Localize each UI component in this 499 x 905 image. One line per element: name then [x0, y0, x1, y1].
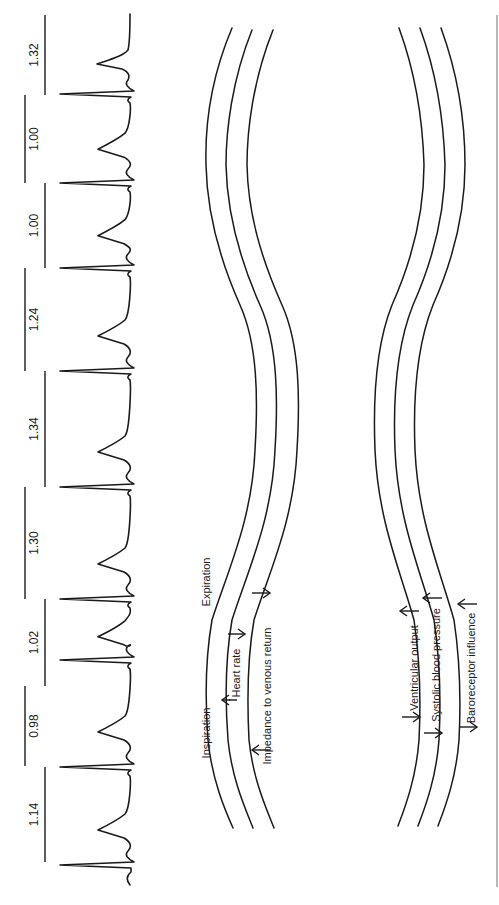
- impedance-venous-return-label: Impedance to venous return: [261, 628, 273, 765]
- rr-interval-label: 1.32: [27, 43, 41, 67]
- ventricular-output-arrow-down: [402, 712, 420, 722]
- left-curve-group: [206, 28, 299, 828]
- ventricular-output-label: Ventricular output: [408, 625, 420, 711]
- ventricular-output-arrow-up: [400, 606, 419, 616]
- phase-labels: Inspiration Expiration: [200, 558, 212, 759]
- rr-interval-label: 1.34: [27, 417, 41, 441]
- diagram-svg: 1.140.981.021.301.341.241.001.001.32: [0, 0, 499, 905]
- rr-interval-label: 1.30: [27, 531, 41, 555]
- rr-interval-label: 1.00: [27, 213, 41, 237]
- expiration-label: Expiration: [200, 558, 212, 607]
- impedance-arrow-up: [252, 588, 270, 598]
- figure-canvas: 1.140.981.021.301.341.241.001.001.32: [0, 0, 499, 905]
- baroreceptor-influence-label: Baroreceptor influence: [465, 613, 477, 724]
- heart-rate-label: Heart rate: [230, 649, 242, 698]
- rr-interval-label: 1.24: [27, 307, 41, 331]
- rr-interval-label: 1.02: [27, 630, 41, 654]
- right-group-labels: Ventricular output Systolic blood pressu…: [408, 608, 477, 723]
- systolic-blood-pressure-label: Systolic blood pressure: [430, 608, 442, 722]
- inspiration-label: Inspiration: [200, 708, 212, 759]
- rr-interval-bars: 1.140.981.021.301.341.241.001.001.32: [25, 15, 45, 862]
- baroreceptor-arrow-up: [458, 599, 477, 609]
- rr-interval-label: 1.00: [27, 127, 41, 151]
- left-group-labels: Heart rate Impedance to venous return: [230, 628, 273, 765]
- left-curve-outer: [206, 28, 257, 828]
- ecg-trace: [60, 14, 134, 885]
- rr-interval-label: 0.98: [27, 714, 41, 738]
- rr-interval-label: 1.14: [27, 802, 41, 826]
